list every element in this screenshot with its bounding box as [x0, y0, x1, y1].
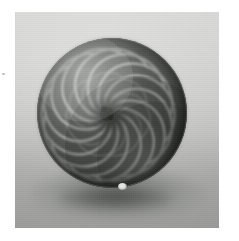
photograph [15, 12, 219, 228]
contact-shadow [59, 188, 171, 210]
spiral-marble [37, 38, 187, 188]
page-canvas: Glass marble with internal spiral whorl [0, 0, 239, 241]
print-speck [2, 73, 5, 75]
spiral-pattern [37, 38, 187, 188]
